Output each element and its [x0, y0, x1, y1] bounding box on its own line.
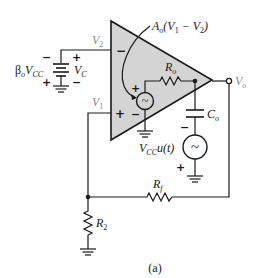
battery-vc-label: VC	[74, 63, 87, 79]
step-source-label: VCCu(t)	[139, 141, 174, 157]
ground-icon	[137, 131, 153, 137]
v2-wire	[61, 50, 111, 63]
internal-source-plus-sign: +	[131, 82, 140, 95]
gain-label: Ao(V1 − V2)	[151, 19, 208, 35]
noninverting-input-sign: +	[115, 107, 125, 121]
vo-terminal	[226, 78, 231, 83]
step-source-bottom-sign: +	[176, 161, 185, 174]
battery-left-top-sign: −	[42, 51, 51, 64]
ground-icon	[187, 176, 203, 182]
resistor-r2	[84, 197, 92, 249]
step-source: ~	[183, 135, 207, 176]
svg-text:~: ~	[142, 94, 149, 108]
battery-vc	[53, 64, 69, 86]
internal-source-minus-sign: −	[131, 108, 140, 121]
ground-icon	[53, 86, 69, 92]
resistor-rf	[88, 193, 175, 201]
battery-beta-vcc-label: βoVCC	[15, 63, 44, 79]
step-source-top-sign: −	[180, 121, 189, 134]
ground-icon	[80, 249, 96, 255]
r2-label: R2	[95, 216, 107, 232]
v1-label: V1	[92, 95, 103, 111]
inverting-input-sign: −	[116, 44, 126, 58]
battery-left-bottom-sign: +	[42, 76, 51, 89]
co-label: Co	[207, 107, 219, 123]
vo-label: Vo	[235, 74, 246, 90]
rf-label: Rf	[152, 177, 164, 193]
battery-right-bottom-sign: −	[72, 76, 81, 89]
svg-text:~: ~	[191, 139, 199, 155]
figure-caption: (a)	[148, 261, 161, 275]
v1-wire	[88, 113, 111, 197]
right-feedback-wire	[175, 84, 229, 197]
circuit-diagram: V2 − − + + − βoVCC VC V1 + ~ + − Ro	[0, 0, 263, 278]
v2-label: V2	[92, 33, 103, 49]
